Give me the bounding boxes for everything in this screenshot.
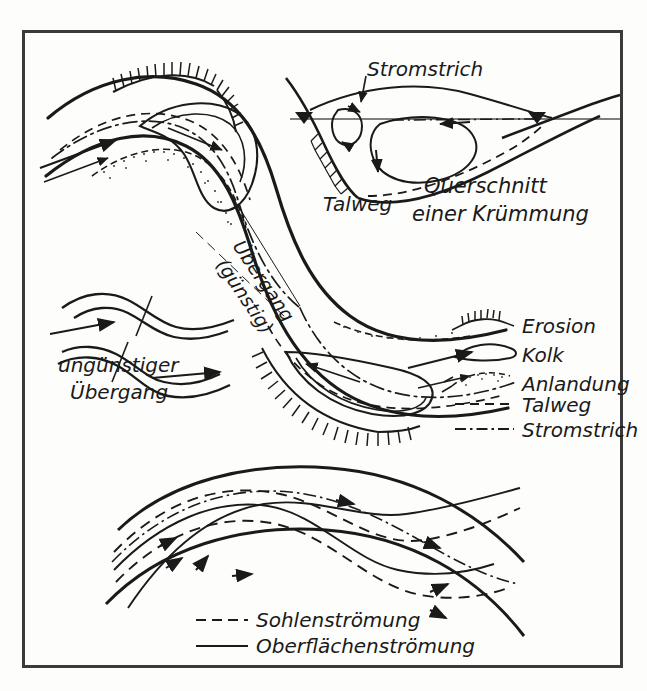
cross-section-title-line2: einer Krümmung [412, 202, 589, 226]
unfav-label-line1: ungünstiger [58, 353, 180, 377]
legend-label-erosion: Erosion [522, 314, 596, 338]
legend-label-stromstrich: Stromstrich [522, 418, 638, 442]
cross-section-title-line1: Querschnitt [424, 174, 548, 198]
legend-label-oberflaechenstroemung: Oberflächenströmung [256, 634, 475, 658]
stromstrich-label: Stromstrich [367, 57, 483, 81]
figure-root: Übergang (günstig) [0, 0, 647, 691]
legend-label-talweg: Talweg [522, 393, 591, 417]
unfav-label-line2: Übergang [70, 380, 168, 404]
legend-label-sohlenstroemung: Sohlenströmung [256, 608, 420, 632]
talweg-label: Talweg [323, 192, 392, 216]
legend-label-kolk: Kolk [522, 343, 565, 367]
